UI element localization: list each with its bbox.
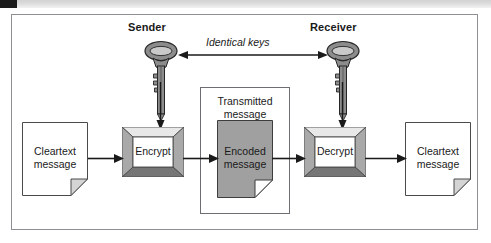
page-top-black-tab — [0, 0, 17, 8]
encoded-message-document: Encoded message — [217, 120, 273, 198]
sender-key-arrow-down-icon — [156, 82, 165, 130]
cleartext-message-input-document: Cleartext message — [22, 122, 88, 196]
figure-canvas: Sender Receiver Identical keys — [0, 0, 491, 243]
cleartext-message-output-document: Cleartext message — [405, 122, 471, 196]
receiver-key-arrow-down-icon — [338, 82, 347, 130]
decrypt-process-box: Decrypt — [304, 127, 366, 177]
flow-arrow-encrypt-to-encoded-icon — [183, 150, 219, 161]
flow-arrow-decrypt-to-cleartext-icon — [365, 150, 407, 161]
page-top-bar — [0, 0, 491, 8]
flow-arrow-cleartext-to-encrypt-icon — [88, 150, 124, 161]
encrypt-process-box: Encrypt — [122, 127, 184, 177]
flow-arrow-encoded-to-decrypt-icon — [272, 150, 306, 161]
double-arrow-icon — [178, 47, 328, 59]
sender-label: Sender — [128, 21, 166, 33]
receiver-label: Receiver — [310, 21, 357, 33]
transmitted-message-label: Transmitted message — [200, 95, 290, 120]
